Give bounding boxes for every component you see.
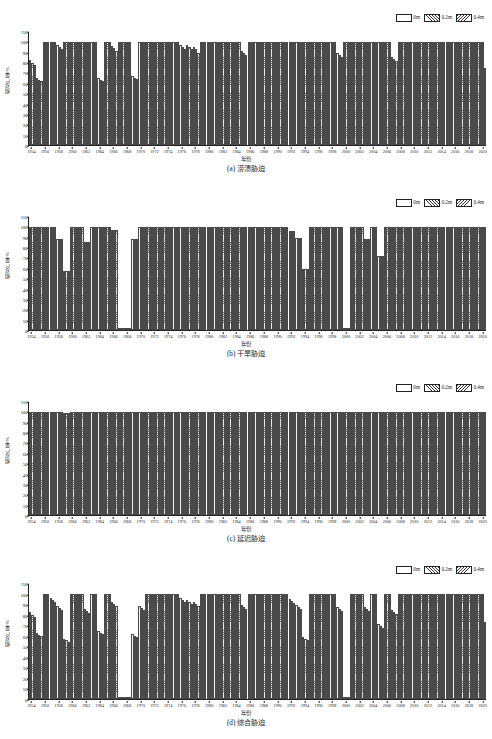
legend-item-0m: 0m <box>396 199 420 207</box>
legend-swatch-0m <box>396 384 412 392</box>
bar-group <box>384 402 391 515</box>
bar-group <box>452 584 459 699</box>
bar-group <box>275 402 282 515</box>
bar-group <box>268 584 275 699</box>
x-tick-label: 1958 <box>55 149 63 154</box>
x-tick-label: 1998 <box>328 519 336 524</box>
bar-group <box>261 217 268 330</box>
chart-legend-b: 0m0.2m0.4m <box>396 199 484 207</box>
x-tick-label: 1970 <box>137 519 145 524</box>
bar-group <box>49 402 56 515</box>
bar-group <box>43 584 50 699</box>
x-tick-label: 1954 <box>27 703 35 708</box>
bar-group <box>241 584 248 699</box>
bar-group <box>316 32 323 145</box>
x-tick-label: 1972 <box>150 519 158 524</box>
bar-group <box>473 32 480 145</box>
bar-group <box>425 32 432 145</box>
x-tick-label: 1988 <box>260 519 268 524</box>
bar-group <box>309 32 316 145</box>
x-tick-label: 2018 <box>465 703 473 708</box>
bar-group <box>63 402 70 515</box>
x-tick-label: 1968 <box>123 334 131 339</box>
bar-group <box>268 402 275 515</box>
bar-group <box>145 402 152 515</box>
bar-group <box>200 217 207 330</box>
bar-group <box>432 584 439 699</box>
x-tick-label: 2002 <box>355 334 363 339</box>
x-tick-label: 2006 <box>383 334 391 339</box>
legend-swatch-0.2m <box>424 566 440 574</box>
bar-group <box>77 584 84 699</box>
bar-group <box>254 402 261 515</box>
plot-area-b: 0102030405060708090100110 <box>28 217 486 331</box>
x-tick-label: 1972 <box>150 149 158 154</box>
bar-group <box>350 217 357 330</box>
x-tick-label: 1968 <box>123 149 131 154</box>
bar-group <box>302 584 309 699</box>
bar-group <box>172 32 179 145</box>
bar-group <box>370 217 377 330</box>
x-axis-label-d: 年份 <box>0 709 492 717</box>
bar-group <box>241 217 248 330</box>
bar-group <box>193 32 200 145</box>
bar-group <box>370 402 377 515</box>
x-tick-label: 2006 <box>383 149 391 154</box>
x-tick-label: 1958 <box>55 334 63 339</box>
x-tick-label: 2004 <box>369 703 377 708</box>
bar-group <box>152 402 159 515</box>
bar-group <box>261 584 268 699</box>
bar-group <box>439 217 446 330</box>
bar-group <box>36 217 43 330</box>
x-tick-label: 2012 <box>424 149 432 154</box>
bar-group <box>70 402 77 515</box>
bar-group <box>418 217 425 330</box>
legend-item-0m: 0m <box>396 566 420 574</box>
bar-group <box>329 402 336 515</box>
bar-group <box>357 584 364 699</box>
x-tick-label: 1988 <box>260 703 268 708</box>
legend-label-0.4m: 0.4m <box>473 385 484 390</box>
bar-group <box>145 217 152 330</box>
x-tick-label: 1962 <box>82 519 90 524</box>
bar-group <box>56 584 63 699</box>
x-tick-label: 1994 <box>301 149 309 154</box>
bar-group <box>343 402 350 515</box>
bar-group <box>118 402 125 515</box>
bar-group <box>459 217 466 330</box>
bar-group <box>193 402 200 515</box>
bar-group <box>473 217 480 330</box>
x-tick-label: 1998 <box>328 149 336 154</box>
x-tick-label: 1984 <box>232 334 240 339</box>
bar-group <box>350 32 357 145</box>
legend-label-0.2m: 0.2m <box>441 200 452 205</box>
bar-group <box>179 217 186 330</box>
bar-group <box>350 584 357 699</box>
bar-group <box>261 32 268 145</box>
bar-group <box>377 584 384 699</box>
bar-group <box>90 584 97 699</box>
bar-group <box>63 217 70 330</box>
legend-label-0.2m: 0.2m <box>441 15 452 20</box>
bar-group <box>288 217 295 330</box>
bar-group-container-b <box>29 217 486 330</box>
bar-group <box>213 584 220 699</box>
bar-group <box>384 584 391 699</box>
x-tick-label: 2012 <box>424 703 432 708</box>
x-tick-label: 1986 <box>246 149 254 154</box>
bar-group <box>248 217 255 330</box>
bar-group <box>336 584 343 699</box>
chart-caption-c: (c) 延迟胁迫 <box>0 533 492 543</box>
bar-group <box>186 584 193 699</box>
x-tick-label: 2014 <box>437 703 445 708</box>
x-tick-label: 2014 <box>437 149 445 154</box>
bar-group <box>84 584 91 699</box>
bar-group <box>97 584 104 699</box>
x-tick-label: 2006 <box>383 703 391 708</box>
bar-group-container-d <box>29 584 486 699</box>
bar <box>484 622 486 699</box>
bar-group <box>446 584 453 699</box>
bar-group <box>248 584 255 699</box>
x-tick-label: 1984 <box>232 703 240 708</box>
bar-group <box>323 584 330 699</box>
